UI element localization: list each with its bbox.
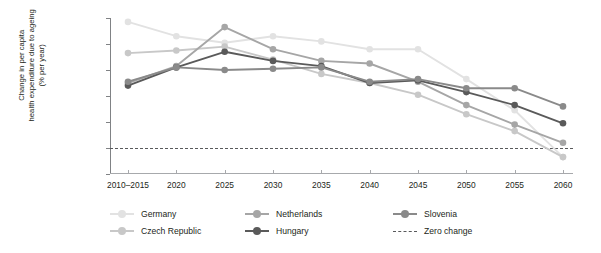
legend-item-czech-republic[interactable]: Czech Republic [110,222,245,239]
data-point [125,19,132,26]
legend-swatch-germany [110,209,134,219]
legend-label-slovenia: Slovenia [424,209,457,219]
data-point [221,24,228,31]
y-axis-title-line-3: (% per year) [37,0,47,150]
series-slovenia [125,64,567,110]
data-point [560,120,567,127]
legend-label-germany: Germany [141,209,176,219]
data-point [415,46,422,53]
y-tick [106,174,110,175]
series-netherlands [125,24,567,146]
data-point [270,46,277,53]
x-tick-label: 2020 [167,180,186,190]
x-tick-label: 2050 [457,180,476,190]
legend-label-hungary: Hungary [276,226,308,236]
x-tick-label: 2025 [215,180,234,190]
x-tick-label: 2045 [409,180,428,190]
data-point [221,67,228,74]
data-point [270,33,277,40]
x-tick-label: 2055 [505,180,524,190]
data-point [511,102,518,109]
data-point [511,128,518,135]
x-tick-label: 2010–2015 [107,180,149,190]
data-point [173,47,180,54]
data-point [125,78,132,85]
data-point [415,91,422,98]
data-point [318,38,325,45]
data-point [173,33,180,40]
data-point [560,103,567,110]
data-point [463,102,470,109]
data-point [270,65,277,72]
data-point [415,76,422,83]
legend-swatch-hungary [245,226,269,236]
data-point [463,85,470,92]
data-point [560,154,567,161]
x-tick-label: 2040 [360,180,379,190]
legend-item-netherlands[interactable]: Netherlands [245,205,393,222]
data-point [463,111,470,118]
chart-legend: Germany Netherlands Slovenia Czech Repub… [110,205,580,239]
legend-item-zero-change[interactable]: Zero change [393,222,543,239]
legend-item-hungary[interactable]: Hungary [245,222,393,239]
y-axis-title-line-2: health expenditure due to ageing [27,0,37,150]
legend-swatch-netherlands [245,209,269,219]
legend-row-2: Czech Republic Hungary Zero change [110,222,580,239]
legend-swatch-slovenia [393,209,417,219]
legend-label-zero-change: Zero change [424,226,472,236]
legend-item-slovenia[interactable]: Slovenia [393,205,543,222]
data-point [511,85,518,92]
data-point [318,64,325,71]
legend-swatch-zero-change [393,226,417,236]
data-point [463,76,470,83]
x-tick-label: 2035 [312,180,331,190]
y-axis-title-line-1: Change in per capita [17,0,27,150]
data-point [511,121,518,128]
data-point [366,60,373,67]
data-point [560,140,567,147]
series-germany [125,19,567,161]
data-point [366,78,373,85]
legend-row-1: Germany Netherlands Slovenia [110,205,580,222]
x-tick-label: 2030 [264,180,283,190]
legend-item-germany[interactable]: Germany [110,205,245,222]
data-point [270,58,277,65]
series-lines [110,18,573,174]
y-axis-title: Change in per capita health expenditure … [17,0,48,150]
chart-figure: Change in per capita health expenditure … [0,0,601,253]
data-point [318,71,325,78]
legend-swatch-czech-republic [110,226,134,236]
data-point [173,64,180,71]
x-tick-label: 2060 [554,180,573,190]
data-point [221,49,228,56]
legend-label-netherlands: Netherlands [276,209,322,219]
data-point [125,50,132,57]
data-point [366,46,373,53]
plot-area: 1.00.80.60.40.20-0.2 2010–20152020202520… [110,18,573,174]
legend-label-czech-republic: Czech Republic [141,226,201,236]
